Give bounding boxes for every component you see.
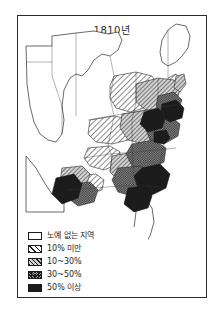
legend-swatch-no-slavery bbox=[28, 232, 42, 240]
legend-item: 50% 이상 bbox=[28, 281, 148, 294]
legend-label: 30~50% bbox=[47, 270, 82, 279]
slavery-distribution-map-figure: 1810년 bbox=[0, 0, 223, 316]
legend-swatch-under-10 bbox=[28, 245, 42, 253]
map-frame: 1810년 bbox=[17, 15, 207, 298]
legend-swatch-over-50 bbox=[28, 284, 42, 292]
legend-swatch-10-30 bbox=[28, 258, 42, 266]
legend-label: 50% 이상 bbox=[47, 283, 81, 292]
legend-item: 노예 없는 지역 bbox=[28, 229, 148, 242]
legend-label: 노예 없는 지역 bbox=[47, 231, 94, 240]
legend-label: 10~30% bbox=[47, 257, 82, 266]
legend-item: 10% 미만 bbox=[28, 242, 148, 255]
legend-item: 10~30% bbox=[28, 255, 148, 268]
legend-label: 10% 미만 bbox=[47, 244, 81, 253]
map-legend: 노예 없는 지역 10% 미만 10~30% 30~50% 50% 이상 bbox=[28, 227, 148, 296]
legend-swatch-30-50 bbox=[28, 271, 42, 279]
legend-item: 30~50% bbox=[28, 268, 148, 281]
